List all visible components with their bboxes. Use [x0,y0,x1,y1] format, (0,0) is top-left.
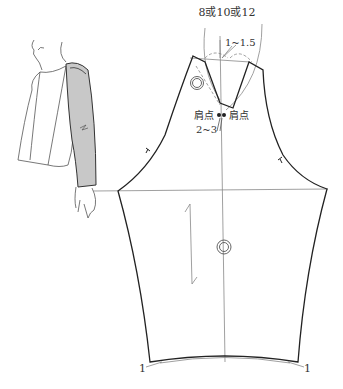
grain-arrow [190,204,192,284]
shoulder-point-left-label: 肩点 [194,109,214,121]
raglan-sleeve-diagram: 8或10或12 1~1.5 肩点 肩点 2~3 1 1 [0,0,343,389]
top-measure-label: 8或10或12 [199,6,256,19]
neck-back [61,42,66,62]
center-grain-line [220,36,225,362]
shaded-sleeve [66,63,96,187]
notch-right [278,157,282,163]
shoulder-point-right-label: 肩点 [229,109,249,121]
hem-right-label: 1 [304,362,311,375]
notch-left [146,148,150,153]
double-circle-center [217,240,231,254]
bicep-line [93,189,328,191]
dart-measure-label: 1~1.5 [225,37,256,48]
hem-left-label: 1 [139,362,146,375]
face-outline [32,40,42,70]
shoulder-gap-label: 2~3 [196,124,217,135]
double-circle-top [191,77,204,90]
